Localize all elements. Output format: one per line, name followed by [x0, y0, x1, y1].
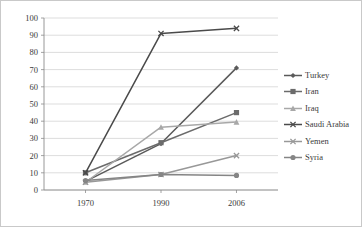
legend-marker-cross-icon [283, 136, 303, 147]
data-point-marker [83, 178, 88, 183]
legend-marker-square-icon [283, 86, 303, 97]
data-point-marker [290, 73, 295, 78]
data-series-group [83, 26, 240, 185]
x-axis-tick-labels: 197019902006 [77, 198, 245, 208]
legend-item-iraq[interactable]: Iraq [283, 100, 361, 117]
y-axis-tick-labels: 0102030405060708090100 [25, 13, 38, 195]
legend-item-iran[interactable]: Iran [283, 84, 361, 101]
legend-item-syria[interactable]: Syria [283, 150, 361, 167]
y-axis-tick-label: 60 [30, 82, 39, 92]
legend-item-label: Turkey [305, 70, 329, 81]
legend-item-label: Iraq [305, 103, 319, 114]
grid-lines [41, 18, 278, 190]
chart-legend: TurkeyIranIraqSaudi ArabiaYemenSyria [283, 67, 361, 166]
y-axis-tick-label: 40 [30, 116, 39, 126]
data-point-marker [290, 89, 295, 94]
x-axis-tick-label: 2006 [228, 198, 245, 208]
legend-marker-diamond-icon [283, 70, 303, 81]
legend-marker-circle-icon [283, 152, 303, 163]
data-series [83, 26, 239, 176]
legend-item-label: Saudi Arabia [305, 119, 349, 130]
chart-container: 0102030405060708090100 197019902006 Turk… [1, 1, 362, 227]
axis-lines [44, 18, 278, 193]
y-axis-tick-label: 20 [30, 151, 39, 161]
legend-marker-triangle-icon [283, 103, 303, 114]
data-point-marker [158, 172, 163, 177]
y-axis-tick-label: 100 [25, 13, 38, 23]
y-axis-tick-label: 30 [30, 133, 39, 143]
data-point-marker [234, 173, 239, 178]
x-axis-tick-label: 1970 [77, 198, 94, 208]
x-axis-tick-label: 1990 [153, 198, 170, 208]
legend-item-saudi-arabia[interactable]: Saudi Arabia [283, 117, 361, 134]
y-axis-tick-label: 10 [30, 168, 39, 178]
data-point-marker [290, 155, 295, 160]
y-axis-tick-label: 80 [30, 47, 39, 57]
data-series [83, 110, 239, 175]
legend-item-yemen[interactable]: Yemen [283, 133, 361, 150]
y-axis-tick-label: 70 [30, 65, 39, 75]
chart-frame: 0102030405060708090100 197019902006 Turk… [0, 0, 362, 227]
data-series [83, 153, 239, 185]
legend-item-turkey[interactable]: Turkey [283, 67, 361, 84]
data-series [83, 172, 239, 183]
legend-item-label: Yemen [305, 136, 329, 147]
legend-marker-cross-icon [283, 119, 303, 130]
legend-item-label: Iran [305, 86, 319, 97]
y-axis-tick-label: 0 [34, 185, 38, 195]
legend-item-label: Syria [305, 152, 323, 163]
series-line [86, 28, 237, 172]
y-axis-tick-label: 90 [30, 30, 39, 40]
data-point-marker [234, 110, 239, 115]
y-axis-tick-label: 50 [30, 99, 39, 109]
data-point-marker [158, 140, 163, 145]
